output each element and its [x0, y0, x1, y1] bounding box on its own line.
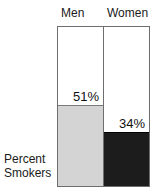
bar-fill-women — [104, 132, 149, 186]
bar-value-label-women: 34% — [119, 117, 145, 131]
bar-column-men: 51% — [58, 27, 103, 186]
chart-figure: Men Women 51% 34% Percent Smokers — [0, 0, 158, 196]
axis-caption-line-2: Smokers — [4, 166, 56, 180]
axis-caption-line-1: Percent — [4, 152, 56, 166]
axis-caption: Percent Smokers — [4, 152, 56, 180]
column-header-men: Men — [61, 7, 84, 20]
bar-column-women: 34% — [103, 27, 149, 186]
column-header-women: Women — [107, 7, 148, 20]
bar-value-label-men: 51% — [73, 90, 99, 104]
bar-fill-men — [58, 105, 103, 186]
plot-frame: 51% 34% — [57, 26, 150, 187]
